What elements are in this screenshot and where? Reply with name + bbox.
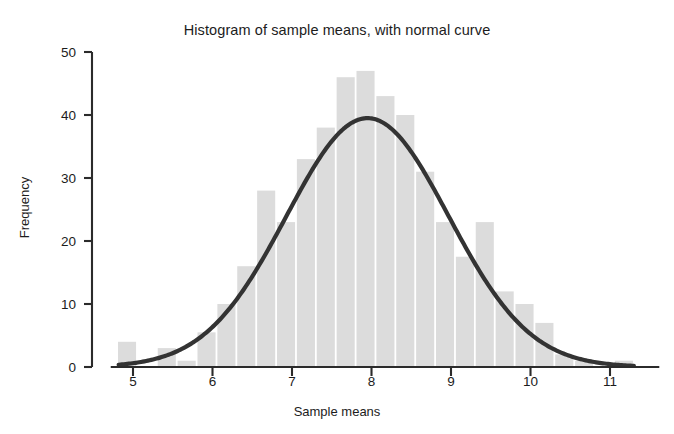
y-tick-label: 20: [42, 234, 76, 249]
histogram-bar: [416, 172, 434, 367]
x-tick-label: 8: [357, 374, 387, 389]
histogram-bar: [237, 266, 255, 367]
y-tick-label: 30: [42, 171, 76, 186]
histogram-bar: [476, 222, 494, 367]
y-axis-ticks: [84, 52, 92, 367]
histogram-bar: [317, 128, 335, 367]
x-tick-label: 11: [595, 374, 625, 389]
histogram-bar: [436, 222, 454, 367]
x-tick-label: 5: [118, 374, 148, 389]
y-tick-label: 40: [42, 108, 76, 123]
x-tick-label: 7: [277, 374, 307, 389]
histogram-bar: [257, 191, 275, 367]
histogram-bar: [376, 96, 394, 367]
histogram-bars: [118, 71, 633, 367]
x-tick-label: 10: [516, 374, 546, 389]
plot-area: [0, 0, 674, 434]
y-tick-label: 10: [42, 297, 76, 312]
histogram-bar: [277, 222, 295, 367]
x-tick-label: 9: [436, 374, 466, 389]
histogram-figure: Histogram of sample means, with normal c…: [0, 0, 674, 434]
y-tick-label: 0: [42, 360, 76, 375]
histogram-bar: [357, 71, 375, 367]
y-tick-label: 50: [42, 45, 76, 60]
x-tick-label: 6: [198, 374, 228, 389]
normal-curve: [119, 118, 634, 366]
histogram-bar: [456, 257, 474, 367]
